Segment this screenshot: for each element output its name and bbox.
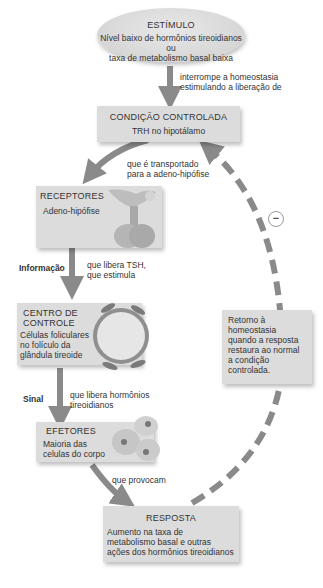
controlled-condition-box: CONDIÇÃO CONTROLADA TRH no hipotálamo — [97, 106, 240, 142]
arrow3-label-line1: que libera TSH, — [87, 260, 146, 270]
arrow2-label: que é transportado para a adeno-hipófise — [127, 159, 209, 179]
feedback-line1: Retorno à — [228, 315, 265, 325]
thyroid-follicle-illustration — [88, 296, 154, 376]
effectors-title: EFETORES — [46, 426, 96, 436]
arrow3-label: que libera TSH, que estimula — [87, 260, 146, 280]
arrow1-label-line1: interrompe a homeostasia — [180, 72, 282, 82]
response-line1: Aumento na taxa de — [107, 527, 183, 537]
arrow4-label: que libera hormônios tireoidianos — [70, 390, 149, 410]
feedback-line3: quando a resposta — [228, 335, 298, 345]
arrow4-label-line2: tireoidianos — [70, 400, 149, 410]
controlled-condition-title: CONDIÇÃO CONTROLADA — [97, 112, 240, 122]
arrow2-label-line2: para a adeno-hipófise — [127, 169, 209, 179]
response-line2: metabolismo basal e outras — [107, 537, 211, 547]
response-box: RESPOSTA Aumento na taxa de metabolismo … — [103, 506, 239, 562]
arrow5-label: que provocam — [112, 475, 166, 485]
arrow2-label-line1: que é transportado — [127, 159, 209, 169]
feedback-line2: homeostasia — [228, 325, 276, 335]
stimulus-line2: taxa de metabolismo basal baixa — [97, 53, 245, 63]
feedback-line6: controlada. — [228, 365, 270, 375]
response-title: RESPOSTA — [103, 513, 239, 523]
stimulus-line1: Nível baixo de hormônios tireoidianos ou — [97, 33, 245, 53]
control-center-title1: CENTRO DE — [23, 308, 78, 318]
arrow1-label-line2: estimulando a liberação de — [180, 82, 282, 92]
arrow4-label-line1: que libera hormônios — [70, 390, 149, 400]
stimulus-title: ESTÍMULO — [97, 20, 245, 30]
information-label: Informação — [19, 263, 65, 273]
receptors-text: Adeno-hipófise — [43, 206, 100, 216]
arrow1-label: interrompe a homeostasia estimulando a l… — [180, 72, 282, 92]
stimulus-ellipse: ESTÍMULO Nível baixo de hormônios tireoi… — [97, 8, 245, 62]
signal-label: Sinal — [23, 394, 43, 404]
pituitary-gland-illustration — [106, 186, 162, 252]
control-center-line3: glândula tireoide — [20, 350, 82, 360]
controlled-condition-text: TRH no hipotálamo — [97, 126, 240, 136]
receptors-box: RECEPTORES Adeno-hipófise — [36, 186, 162, 248]
feedback-box: Retorno à homeostasia quando a resposta … — [222, 310, 312, 384]
control-center-line2: no folículo da — [20, 340, 71, 350]
response-line3: ações dos hormônios tireoidianos — [107, 547, 234, 557]
arrow3-label-line2: que estimula — [87, 270, 146, 280]
receptors-title: RECEPTORES — [40, 191, 104, 201]
effectors-line2: celulas do corpo — [43, 449, 105, 459]
feedback-line5: a condição — [228, 355, 269, 365]
feedback-line4: restaura ao normal — [228, 345, 299, 355]
body-cells-illustration — [106, 414, 164, 466]
control-center-line1: Células foliculares — [20, 330, 89, 340]
control-center-title2: CONTROLE — [23, 318, 75, 328]
negative-feedback-icon: − — [268, 211, 284, 227]
effectors-line1: Maioria das — [43, 439, 87, 449]
